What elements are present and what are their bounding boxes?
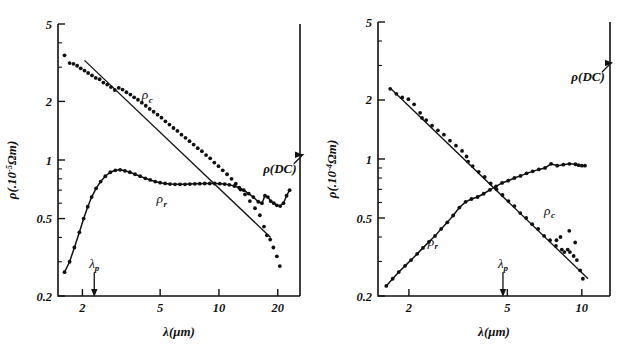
data-point — [180, 133, 184, 137]
data-point — [198, 182, 202, 186]
data-point — [543, 166, 547, 170]
data-point — [184, 136, 188, 140]
rho-c-label: ρc — [141, 87, 153, 105]
data-point — [268, 238, 272, 242]
chart-panel-right: 0.20.51252510ρcρrρ(DC)λpλ(μm)ρ(.10-4Ωm) — [316, 0, 632, 352]
data-point — [108, 170, 112, 174]
rho-dc-arrowhead — [295, 152, 303, 158]
data-point — [230, 177, 234, 181]
data-point — [519, 174, 523, 178]
data-point — [531, 169, 535, 173]
data-point — [86, 71, 90, 75]
data-point — [123, 169, 127, 173]
data-point — [233, 184, 237, 188]
data-point — [465, 155, 469, 159]
rho-dc-label: ρ(DC) — [570, 69, 604, 84]
data-point — [464, 200, 468, 204]
data-point — [77, 230, 81, 234]
data-point — [196, 146, 200, 150]
data-point — [275, 203, 279, 207]
data-point — [275, 254, 279, 258]
rho-dc-annotation: ρ(DC) — [570, 60, 613, 84]
data-point — [406, 97, 410, 101]
data-point — [156, 113, 160, 117]
data-point — [68, 260, 72, 264]
data-point — [212, 161, 216, 165]
data-point — [208, 182, 212, 186]
data-point — [158, 181, 162, 185]
data-point — [225, 172, 229, 176]
data-point — [200, 149, 204, 153]
data-point — [172, 126, 176, 130]
data-point — [143, 176, 147, 180]
lambda-p-label: λp — [497, 256, 509, 273]
data-point — [439, 227, 443, 231]
data-point — [568, 162, 572, 166]
x-tick-label: 5 — [504, 301, 510, 315]
data-point — [90, 195, 94, 199]
data-point — [285, 194, 289, 198]
data-point — [278, 204, 282, 208]
y-tick-label: 2 — [45, 95, 52, 109]
figure-container: 0.20.5125251020ρcρrρ(DC)λpλ(μm)ρ(.10-5Ωm… — [0, 0, 632, 352]
data-point — [117, 86, 121, 90]
data-point — [262, 225, 266, 229]
data-point — [500, 181, 504, 185]
data-point — [79, 66, 83, 70]
curve-rho-r — [65, 170, 290, 272]
rho-c-label: ρc — [543, 203, 555, 221]
curve-rho-r — [386, 164, 585, 286]
chart-panel-left: 0.20.5125251020ρcρrρ(DC)λpλ(μm)ρ(.10-5Ωm… — [0, 0, 316, 352]
x-tick-label: 10 — [576, 301, 589, 315]
data-point — [152, 110, 156, 114]
data-point — [549, 162, 553, 166]
y-axis-title: ρ(.10-4Ωm) — [324, 140, 340, 200]
x-tick-label: 10 — [213, 301, 226, 315]
data-point — [204, 153, 208, 157]
data-point — [75, 64, 79, 68]
data-point — [247, 192, 251, 196]
data-point — [203, 182, 207, 186]
chart-svg-left: 0.20.5125251020ρcρrρ(DC)λpλ(μm)ρ(.10-5Ωm… — [0, 0, 316, 352]
data-point — [384, 284, 388, 288]
data-point — [148, 178, 152, 182]
data-point — [397, 270, 401, 274]
data-point — [128, 93, 132, 97]
data-point — [160, 116, 164, 120]
x-tick-label: 20 — [270, 301, 284, 315]
data-point — [86, 205, 90, 209]
data-point — [278, 264, 282, 268]
data-point — [98, 77, 102, 81]
data-point — [555, 164, 559, 168]
lambda-p-label: λp — [88, 256, 100, 273]
data-point — [412, 102, 416, 106]
x-tick-label: 5 — [157, 301, 163, 315]
fit-line-rho-c — [84, 60, 270, 237]
data-point — [403, 264, 407, 268]
data-point — [121, 88, 125, 92]
data-point — [266, 195, 270, 199]
data-point — [94, 76, 98, 80]
data-point — [243, 193, 247, 197]
data-point — [448, 139, 452, 143]
data-point — [223, 182, 227, 186]
data-point — [409, 258, 413, 262]
x-axis-title: λ(μm) — [162, 324, 195, 339]
x-axis-title: λ(μm) — [477, 324, 510, 339]
y-tick-label: 1 — [366, 153, 372, 167]
data-point — [128, 170, 132, 174]
data-point — [482, 192, 486, 196]
data-point — [218, 182, 222, 186]
data-point — [451, 214, 455, 218]
x-tick-label: 2 — [78, 301, 85, 315]
data-point — [494, 184, 498, 188]
data-point — [458, 206, 462, 210]
data-point — [583, 164, 587, 168]
data-point — [577, 163, 581, 167]
data-point — [559, 235, 563, 239]
data-point — [476, 195, 480, 199]
data-point — [168, 182, 172, 186]
data-point — [227, 183, 231, 187]
data-point — [63, 270, 67, 274]
data-point — [253, 206, 257, 210]
